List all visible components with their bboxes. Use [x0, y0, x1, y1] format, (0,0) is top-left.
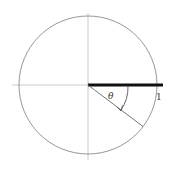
arrowhead-icon: [117, 106, 123, 112]
unit-circle-diagram: θ 1: [0, 0, 175, 169]
theta-label: θ: [108, 91, 114, 101]
radius-label: 1: [156, 92, 162, 102]
rotated-radius-line: [88, 85, 143, 127]
